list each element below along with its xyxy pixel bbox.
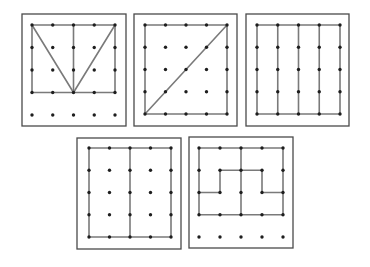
peg xyxy=(255,46,258,49)
peg xyxy=(297,46,300,49)
peg xyxy=(164,23,167,26)
peg xyxy=(51,46,54,49)
peg xyxy=(297,68,300,71)
peg xyxy=(143,112,146,115)
peg xyxy=(113,46,116,49)
peg xyxy=(113,91,116,94)
peg xyxy=(281,169,284,172)
peg xyxy=(87,235,90,238)
peg xyxy=(169,146,172,149)
peg xyxy=(108,213,111,216)
peg xyxy=(239,146,242,149)
peg xyxy=(225,112,228,115)
peg xyxy=(255,112,258,115)
peg xyxy=(51,23,54,26)
peg xyxy=(93,91,96,94)
board-4 xyxy=(77,138,181,249)
peg xyxy=(338,23,341,26)
peg xyxy=(225,68,228,71)
peg xyxy=(184,90,187,93)
peg xyxy=(30,113,33,116)
peg xyxy=(260,146,263,149)
peg xyxy=(128,213,131,216)
peg xyxy=(225,46,228,49)
peg xyxy=(87,146,90,149)
peg xyxy=(225,90,228,93)
peg xyxy=(169,191,172,194)
peg xyxy=(184,68,187,71)
peg xyxy=(205,112,208,115)
board-3 xyxy=(246,14,349,126)
peg xyxy=(276,90,279,93)
peg xyxy=(338,68,341,71)
board-2 xyxy=(134,14,237,126)
peg xyxy=(143,23,146,26)
peg xyxy=(281,191,284,194)
peg xyxy=(281,146,284,149)
peg xyxy=(297,23,300,26)
board-1 xyxy=(22,14,126,126)
peg xyxy=(260,191,263,194)
peg xyxy=(51,91,54,94)
peg xyxy=(276,23,279,26)
peg xyxy=(197,146,200,149)
peg xyxy=(164,68,167,71)
peg xyxy=(51,113,54,116)
peg xyxy=(164,112,167,115)
peg xyxy=(143,90,146,93)
peg xyxy=(93,68,96,71)
peg xyxy=(276,68,279,71)
board-5 xyxy=(189,137,293,248)
peg xyxy=(205,90,208,93)
peg xyxy=(338,112,341,115)
peg xyxy=(169,235,172,238)
peg xyxy=(30,68,33,71)
peg xyxy=(169,213,172,216)
peg xyxy=(113,68,116,71)
peg xyxy=(143,68,146,71)
peg xyxy=(30,91,33,94)
peg xyxy=(108,191,111,194)
peg xyxy=(255,23,258,26)
peg xyxy=(149,191,152,194)
peg xyxy=(318,23,321,26)
peg xyxy=(205,46,208,49)
peg xyxy=(164,46,167,49)
peg xyxy=(149,235,152,238)
peg xyxy=(225,23,228,26)
peg xyxy=(93,113,96,116)
peg xyxy=(338,46,341,49)
peg xyxy=(239,169,242,172)
peg xyxy=(72,68,75,71)
peg xyxy=(239,213,242,216)
peg xyxy=(318,90,321,93)
peg xyxy=(108,146,111,149)
peg xyxy=(260,213,263,216)
peg xyxy=(255,68,258,71)
peg xyxy=(93,46,96,49)
peg xyxy=(87,169,90,172)
peg xyxy=(72,113,75,116)
peg xyxy=(281,213,284,216)
peg xyxy=(281,235,284,238)
peg xyxy=(197,213,200,216)
peg xyxy=(184,23,187,26)
peg xyxy=(143,46,146,49)
peg xyxy=(149,146,152,149)
peg xyxy=(184,112,187,115)
peg xyxy=(297,112,300,115)
peg xyxy=(218,213,221,216)
peg xyxy=(276,46,279,49)
peg xyxy=(338,90,341,93)
peg xyxy=(164,90,167,93)
peg xyxy=(218,169,221,172)
peg xyxy=(218,191,221,194)
peg xyxy=(128,169,131,172)
peg xyxy=(128,235,131,238)
peg xyxy=(205,23,208,26)
peg xyxy=(30,46,33,49)
peg xyxy=(318,68,321,71)
peg xyxy=(72,23,75,26)
peg xyxy=(318,112,321,115)
peg xyxy=(87,213,90,216)
